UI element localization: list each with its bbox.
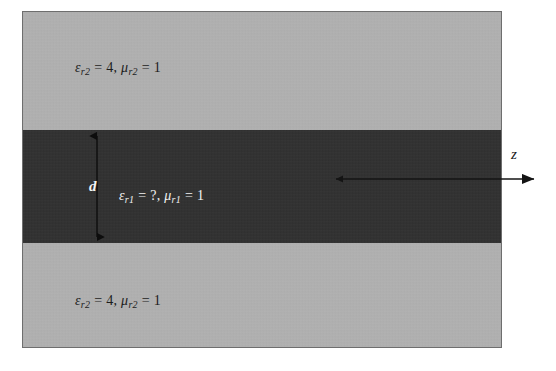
- core-mu-equals: =: [185, 188, 193, 203]
- lower-mu-subscript: r2: [128, 299, 138, 310]
- core-mu-value: 1: [197, 188, 204, 203]
- z-axis-label: z: [511, 146, 517, 163]
- thickness-dimension-arrow: [83, 130, 111, 243]
- upper-epsilon-equals: =: [94, 60, 102, 75]
- lower-mu-equals: =: [142, 293, 150, 308]
- lower-epsilon-subscript: r2: [81, 299, 91, 310]
- core-mu-subscript: r1: [172, 194, 182, 205]
- lower-cladding-material-label: εr2 = 4, μr2 = 1: [75, 293, 161, 310]
- lower-label-separator: ,: [113, 293, 121, 308]
- upper-epsilon-subscript: r2: [81, 66, 91, 77]
- lower-mu-value: 1: [154, 293, 161, 308]
- lower-epsilon-equals: =: [94, 293, 102, 308]
- slab-waveguide-figure: εr2 = 4, μr2 = 1 εr1 = ?, μr1 = 1: [0, 0, 556, 371]
- upper-cladding-material-label: εr2 = 4, μr2 = 1: [75, 60, 161, 77]
- upper-mu-value: 1: [154, 60, 161, 75]
- core-material-label: εr1 = ?, μr1 = 1: [119, 188, 204, 205]
- core-epsilon-subscript: r1: [125, 194, 135, 205]
- core-mu-symbol: μ: [164, 188, 171, 203]
- upper-label-separator: ,: [113, 60, 121, 75]
- upper-mu-subscript: r2: [128, 66, 138, 77]
- upper-mu-equals: =: [142, 60, 150, 75]
- z-axis-arrow: [330, 168, 546, 190]
- thickness-label: d: [89, 178, 97, 195]
- core-epsilon-equals: =: [138, 188, 146, 203]
